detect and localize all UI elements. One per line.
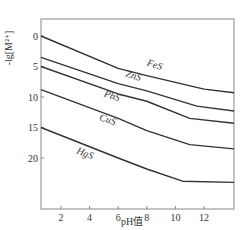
curve-label-pbs: PbS bbox=[102, 87, 122, 103]
x-tick-label: 4 bbox=[87, 212, 92, 223]
curve-hgs bbox=[41, 128, 234, 183]
curve-fes bbox=[41, 36, 234, 93]
x-tick-label: 8 bbox=[144, 212, 149, 223]
y-tick-label: 0 bbox=[33, 31, 38, 42]
y-tick-label: 5 bbox=[33, 61, 38, 72]
y-axis-title: -lg[M²⁺] bbox=[3, 31, 14, 66]
y-axis: 05101520 bbox=[28, 31, 44, 164]
curve-label-zns: ZnS bbox=[124, 68, 142, 83]
y-tick-label: 15 bbox=[28, 122, 38, 133]
x-tick-label: 10 bbox=[170, 212, 180, 223]
curve-label-cus: CuS bbox=[98, 111, 117, 127]
curves bbox=[41, 36, 234, 182]
chart: 05101520 24681012 FeSZnSPbSCuSHgS pH值 -l… bbox=[0, 0, 246, 230]
y-tick-label: 20 bbox=[28, 153, 38, 164]
x-tick-label: 2 bbox=[59, 212, 64, 223]
curve-label-fes: FeS bbox=[145, 56, 164, 72]
y-tick-label: 10 bbox=[28, 92, 38, 103]
curve-label-hgs: HgS bbox=[74, 144, 95, 161]
x-axis-title: pH值 bbox=[121, 215, 143, 227]
x-tick-label: 12 bbox=[199, 212, 209, 223]
curve-zns bbox=[41, 57, 234, 111]
